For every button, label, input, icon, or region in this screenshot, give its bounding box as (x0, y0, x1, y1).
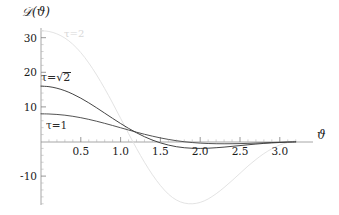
sqrt-symbol-icon: √2 (56, 72, 70, 83)
sqrt-overbar (63, 72, 71, 73)
x-tick-label: 1.0 (111, 146, 131, 157)
y-axis-title: 𝒟(ϑ) (22, 6, 50, 18)
x-tick-label: 0.5 (71, 146, 91, 157)
chart-figure: 𝒟(ϑ) ϑ 0.51.01.52.02.53.0 302010-10 τ=1 … (0, 0, 339, 215)
x-tick-label: 3.0 (270, 146, 290, 157)
x-axis-title: ϑ (317, 129, 326, 141)
x-tick-label: 1.5 (150, 146, 170, 157)
series-label-tau-sqrt2-prefix: τ= (41, 71, 56, 84)
x-tick-label: 2.5 (230, 146, 250, 157)
chart-series-group (41, 31, 296, 204)
x-tick-label: 2.0 (190, 146, 210, 157)
series-curve (41, 114, 296, 144)
y-tick-label: 10 (8, 102, 37, 113)
y-tick-label: 30 (8, 33, 37, 44)
series-label-tau-1: τ=1 (46, 120, 67, 131)
series-label-tau-2: τ=2 (64, 29, 84, 39)
axis-lines (41, 28, 313, 205)
chart-plot-area (0, 0, 339, 215)
y-tick-label: -10 (8, 171, 37, 182)
y-tick-label: 20 (8, 67, 37, 78)
series-label-tau-sqrt2: τ=√2 (41, 72, 70, 83)
